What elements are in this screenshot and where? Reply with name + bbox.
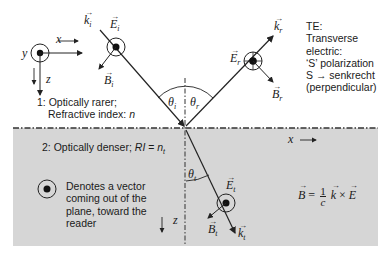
te-description: TE: Transverse electric: ‘S’ polarizatio… [306,20,377,94]
b-sub: t [215,229,217,238]
transmitted-b-label: →Bt [208,223,218,240]
lower-x-label: x [288,133,293,145]
x-axis-label: x [56,33,61,45]
medium1-index-symbol: n [129,108,135,120]
te-line: (perpendicular) [306,81,377,93]
z-axis-label: z [46,73,51,85]
medium1-label: 1: Optically rarer; [37,96,117,108]
medium1-index-prefix: Refractive index: [48,108,129,120]
e-sub: i [117,24,119,33]
y-axis-label: y [22,47,27,59]
theta-sub: t [194,174,196,183]
eq-b-symbol: B [298,188,305,202]
medium2-label: 2: Optically denser; RI = nt [42,141,165,158]
eq-k-symbol: k [331,188,336,202]
medium2-eq: = [145,141,157,153]
b-sub: r [279,94,282,103]
theta-r-label: θr [190,96,199,113]
note-line: Denotes a vector [66,180,147,192]
eq-fraction: 1c [320,186,326,207]
note-line: coming out of the [66,192,147,204]
reflected-ray [186,36,273,126]
eq-den: c [320,197,326,207]
reflected-k-label: →kr [274,20,282,37]
te-line: S → senkrecht [306,69,377,81]
legend-note: Denotes a vector coming out of the plane… [66,180,147,229]
e-sub: t [233,185,235,194]
b-sub: i [111,80,113,89]
theta-sub: i [174,102,176,111]
eq-k: →k [331,188,336,203]
transmitted-k-label: →kt [238,227,246,244]
lower-z-label: z [173,214,178,226]
k-sub: r [279,26,282,35]
medium2-prefix: 2: Optically denser; [42,141,135,153]
eq-times: × [339,188,346,202]
eq-e-symbol: E [349,188,356,202]
te-line: ‘S’ polarization [306,57,377,69]
e-sub: r [237,58,240,67]
te-line: Transverse [306,32,377,44]
medium2-ri: RI [135,141,146,153]
incident-k-label: →ki [84,14,92,31]
theta-i-label: θi [168,96,176,113]
medium2-symbol-sub: t [163,148,165,155]
b-field-equation: →B = 1c →k × →E [298,186,356,207]
eq-equals: = [308,188,315,202]
eq-b: →B [298,188,305,203]
theta-sub: r [196,102,199,111]
te-line: TE: [306,20,377,32]
axes-icon [31,41,82,95]
te-line: electric: [306,45,377,57]
k-sub: i [89,20,91,29]
theta-t-label: θt [188,168,196,185]
te-reflection-diagram: x y z 1: Optically rarer; Refractive ind… [0,0,392,258]
note-line: reader [66,217,147,229]
reflected-e-label: →Er [230,52,240,69]
medium1-index: Refractive index: n [48,108,135,120]
k-sub: t [243,233,245,242]
incident-b-label: →Bi [104,74,114,91]
note-line: plane, toward the [66,205,147,217]
reflected-b-label: →Br [272,88,282,105]
transmitted-e-label: →Et [226,179,236,196]
reflected-b-arrow [253,61,273,82]
eq-e: →E [349,188,356,203]
incident-e-label: →Ei [110,18,120,35]
